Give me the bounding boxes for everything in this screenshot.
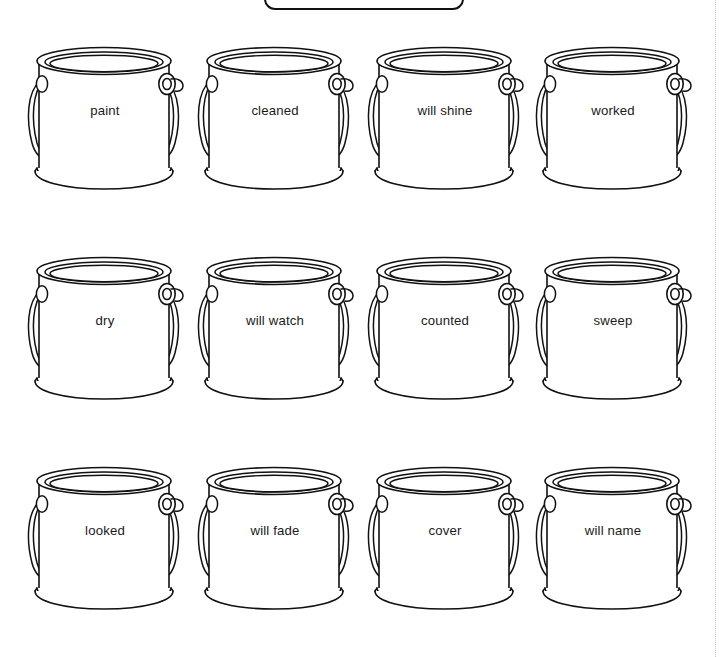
- paint-can-label: looked: [15, 523, 195, 539]
- paint-can-label: cover: [355, 523, 535, 539]
- paint-can-label: will name: [523, 523, 703, 539]
- paint-can-icon: [15, 460, 195, 620]
- paint-can-label: dry: [15, 313, 195, 329]
- worksheet-page: paint cleaned will shine: [0, 0, 724, 657]
- paint-can-cover[interactable]: cover: [355, 460, 535, 620]
- paint-can-label: worked: [523, 103, 703, 119]
- paint-can-icon: [523, 460, 703, 620]
- paint-can-will-fade[interactable]: will fade: [185, 460, 365, 620]
- paint-can-worked[interactable]: worked: [523, 40, 703, 200]
- paint-can-will-watch[interactable]: will watch: [185, 250, 365, 410]
- paint-can-grid: paint cleaned will shine: [0, 0, 724, 657]
- paint-can-dry[interactable]: dry: [15, 250, 195, 410]
- paint-can-will-name[interactable]: will name: [523, 460, 703, 620]
- paint-can-counted[interactable]: counted: [355, 250, 535, 410]
- paint-can-icon: [355, 460, 535, 620]
- paint-can-icon: [355, 250, 535, 410]
- paint-can-looked[interactable]: looked: [15, 460, 195, 620]
- paint-can-icon: [185, 40, 365, 200]
- paint-can-label: will fade: [185, 523, 365, 539]
- paint-can-icon: [355, 40, 535, 200]
- paint-can-cleaned[interactable]: cleaned: [185, 40, 365, 200]
- paint-can-icon: [15, 40, 195, 200]
- paint-can-label: will watch: [185, 313, 365, 329]
- paint-can-icon: [185, 460, 365, 620]
- paint-can-icon: [15, 250, 195, 410]
- paint-can-label: will shine: [355, 103, 535, 119]
- paint-can-sweep[interactable]: sweep: [523, 250, 703, 410]
- paint-can-icon: [523, 40, 703, 200]
- paint-can-label: sweep: [523, 313, 703, 329]
- paint-can-paint[interactable]: paint: [15, 40, 195, 200]
- paint-can-icon: [523, 250, 703, 410]
- paint-can-label: cleaned: [185, 103, 365, 119]
- paint-can-label: counted: [355, 313, 535, 329]
- paint-can-will-shine[interactable]: will shine: [355, 40, 535, 200]
- paint-can-icon: [185, 250, 365, 410]
- paint-can-label: paint: [15, 103, 195, 119]
